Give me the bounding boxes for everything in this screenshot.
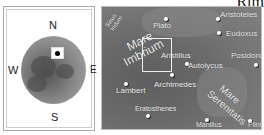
label-plato: Plato xyxy=(153,21,171,30)
label-eratosthenes: Eratosthenes xyxy=(135,105,176,112)
compass-south: S xyxy=(51,111,58,123)
compass-north: N xyxy=(49,19,57,31)
maria-shading xyxy=(31,56,56,78)
crater-eratosthenes-marker xyxy=(146,114,150,118)
lunar-region-map: Sinus Iridum Mare Imbrium Mare Serenitat… xyxy=(101,6,262,130)
detail-inset-box xyxy=(142,38,172,72)
label-archimedes: Archimedes xyxy=(154,80,196,89)
label-autolycus: Autolycus xyxy=(188,61,223,70)
compass-east: E xyxy=(90,64,97,75)
crater-archimedes-marker xyxy=(170,73,174,77)
crater-posidonius-marker xyxy=(254,63,258,67)
maria-shading xyxy=(27,76,47,92)
label-lambert: Lambert xyxy=(116,86,145,95)
moon-locator-panel: N W E S xyxy=(3,6,95,131)
region-marker xyxy=(51,47,64,59)
region-marker-dot xyxy=(55,51,60,56)
maria-shading xyxy=(56,64,74,79)
label-manilius: Manilius xyxy=(196,121,222,128)
label-plinius: Plinius xyxy=(248,121,262,128)
crater-eudoxus-marker xyxy=(217,31,221,35)
label-aristoteles: Aristoteles xyxy=(220,10,257,19)
compass-west: W xyxy=(8,64,18,76)
label-eudoxus: Eudoxus xyxy=(226,29,257,38)
label-sinus-iridum: Sinus Iridum xyxy=(104,11,123,32)
label-posidonius: Posidonius xyxy=(231,51,262,60)
